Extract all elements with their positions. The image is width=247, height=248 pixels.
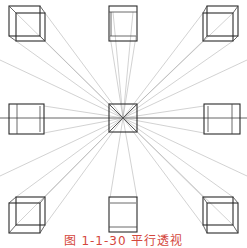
cube-bottom-right — [203, 197, 238, 233]
cube-middle-left — [9, 104, 44, 134]
cube-middle-right — [204, 104, 240, 134]
cube-bottom-left — [9, 197, 45, 233]
cube-top-right — [203, 6, 238, 41]
figure-caption: 图 1-1-30 平行透视 — [0, 234, 247, 248]
cube-bottom-center — [109, 197, 137, 232]
cube-top-center — [109, 6, 137, 41]
